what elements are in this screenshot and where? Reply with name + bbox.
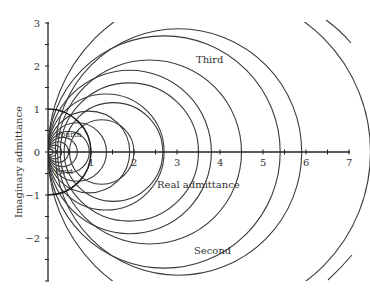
y-tick-label: 0 bbox=[34, 147, 40, 158]
x-tick-label: 1 bbox=[88, 157, 94, 168]
outer-arc-bottom bbox=[328, 255, 352, 280]
x-tick-label: 7 bbox=[346, 157, 352, 168]
y-tick-label: 1 bbox=[34, 104, 40, 115]
y-tick-label: 3 bbox=[34, 18, 40, 29]
label-fourth: Fourth bbox=[56, 130, 82, 139]
outer-arc-top bbox=[326, 20, 351, 43]
x-tick-label: 6 bbox=[303, 157, 309, 168]
y-axis-ticks: 3210−1−2 bbox=[25, 18, 49, 282]
x-tick-label: 5 bbox=[260, 157, 266, 168]
x-tick-label: 3 bbox=[174, 157, 180, 168]
x-axis-label: Real admittance bbox=[157, 179, 240, 190]
y-tick-label: 2 bbox=[34, 61, 40, 72]
label-first: First bbox=[55, 167, 73, 176]
outer-arcs bbox=[326, 20, 352, 280]
y-axis-label: Imaginary admittance bbox=[13, 106, 24, 218]
x-tick-label: 4 bbox=[217, 157, 223, 168]
label-third: Third bbox=[196, 54, 224, 65]
admittance-diagram: 1234567 3210−1−2 Third Second Fourth Fir… bbox=[0, 0, 370, 297]
y-tick-label: −2 bbox=[25, 233, 40, 244]
y-tick-label: −1 bbox=[25, 190, 40, 201]
x-tick-label: 2 bbox=[131, 157, 137, 168]
label-second: Second bbox=[194, 245, 232, 256]
